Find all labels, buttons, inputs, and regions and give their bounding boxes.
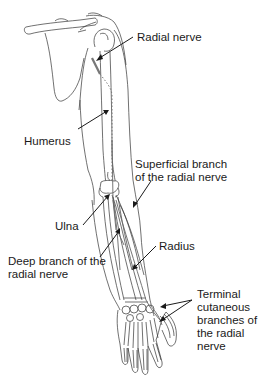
radial-nerve-spiral [100,74,112,180]
pointer-terminal-branches [159,300,192,322]
pointer-humerus [78,110,109,129]
label-terminal-line2: cutaneous [197,301,250,314]
label-deep-branch-line1: Deep branch of the [8,255,106,268]
elbow-joint [100,180,119,193]
label-terminal-line5: nerve [197,340,226,353]
label-radius: Radius [159,240,195,253]
humeral-head [94,29,115,51]
label-humerus: Humerus [24,135,71,148]
label-radial-nerve: Radial nerve [137,31,202,44]
label-terminal-line1: Terminal [197,288,240,301]
scapula [45,33,84,101]
label-superficial-branch-line2: of the radial nerve [135,171,227,184]
humerus-shaft [100,51,106,185]
label-superficial-branch-line1: Superficial branch [135,158,227,171]
label-terminal-line4: the radial [197,327,244,340]
upper-arm-outline-lateral [114,30,141,235]
pointer-ulna [83,194,110,225]
radial-nerve-proximal [92,58,100,74]
label-deep-branch-line2: radial nerve [8,268,68,281]
radial-nerve-diagram: Radial nerve Humerus Superficial branch … [0,0,268,388]
label-ulna: Ulna [55,220,79,233]
label-terminal-line3: branches of [197,314,257,327]
